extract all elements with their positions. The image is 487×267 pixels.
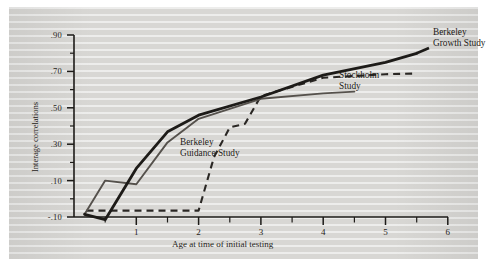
y-tick-label--0.10: -.10 xyxy=(28,212,62,222)
figure-container: .90 .70 .50 .30 .10 -.10 1 2 3 4 5 6 Int… xyxy=(0,0,487,267)
x-tick-label-3: 3 xyxy=(251,227,271,237)
annotation-stockholm-study: Stockholm Study xyxy=(339,70,409,91)
annotation-berkeley-guidance-study: Berkeley Guidance Study xyxy=(180,137,270,158)
x-axis-title: Age at time of initial testing xyxy=(172,239,273,249)
annotation-berkeley-growth-study: Berkeley Growth Study xyxy=(433,27,487,48)
y-tick-label-0.90: .90 xyxy=(28,30,62,40)
x-tick-label-5: 5 xyxy=(376,227,396,237)
x-tick-label-1: 1 xyxy=(126,227,146,237)
x-tick-label-6: 6 xyxy=(438,227,458,237)
x-tick-label-4: 4 xyxy=(313,227,333,237)
y-axis-title: Interage correlations xyxy=(30,102,40,172)
y-tick-label-0.10: .10 xyxy=(28,176,62,186)
chart-svg xyxy=(0,0,487,267)
y-tick-label-0.70: .70 xyxy=(28,66,62,76)
x-tick-label-2: 2 xyxy=(189,227,209,237)
berkeley-growth-leader xyxy=(417,48,429,53)
